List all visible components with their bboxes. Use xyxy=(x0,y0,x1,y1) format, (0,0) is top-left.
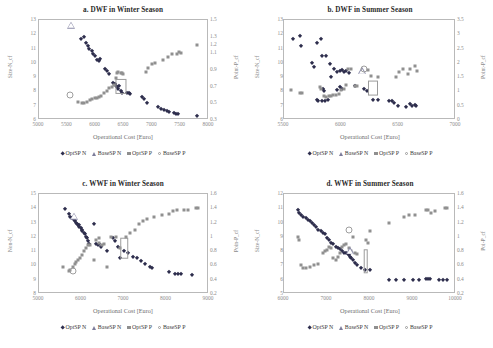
x-tick-label: 7000 xyxy=(146,121,157,127)
data-point-optsp-p xyxy=(97,237,100,240)
plot-area-a xyxy=(38,19,208,119)
y-tick-label-right: 0.5 xyxy=(210,99,217,105)
y-axis-ticks-a: 678910111213 xyxy=(19,19,36,119)
y-tick-label-right: 1.4 xyxy=(457,204,464,210)
y-tick-label: 7 xyxy=(280,261,283,267)
y-tick-label-right: 3.5 xyxy=(457,16,464,22)
y-tick-label-right: 1.5 xyxy=(457,73,464,79)
data-point-optsp-p xyxy=(308,265,311,268)
data-point-optsp-n xyxy=(329,75,334,80)
data-point-optsp-p xyxy=(414,214,417,217)
x-tick-label: 8000 xyxy=(203,121,214,127)
data-point-optsp-n xyxy=(298,34,303,39)
data-point-optsp-n xyxy=(166,270,171,275)
legend-entry: OptSP P xyxy=(374,150,399,156)
y-tick-label: 8 xyxy=(280,247,283,253)
y-tick-label-right: 0.5 xyxy=(457,102,464,108)
data-point-optsp-p xyxy=(129,232,132,235)
data-point-optsp-p xyxy=(133,228,136,231)
legend-entry: OptSP N xyxy=(61,324,87,330)
plot-area-b xyxy=(283,19,455,119)
data-point-optsp-p xyxy=(179,51,182,54)
y-tick-label: 12 xyxy=(31,30,36,36)
x-tick-label: 9000 xyxy=(407,295,418,301)
chart-panel-a: a. DWF in Winter Season 678910111213 0.3… xyxy=(0,0,246,174)
data-point-optsp-n xyxy=(63,207,68,212)
data-point-optsp-p xyxy=(61,265,64,268)
y-tick-label-right: 0.8 xyxy=(457,247,464,253)
data-point-optsp-n xyxy=(149,266,154,271)
data-point-optsp-p xyxy=(433,210,436,213)
data-point-optsp-p xyxy=(413,65,416,68)
data-point-optsp-p xyxy=(344,84,347,87)
panel-title-c: c. WWF in Winter Season xyxy=(0,180,246,188)
data-point-optsp-p xyxy=(349,68,352,71)
data-point-basesp-n xyxy=(67,22,75,29)
x-tick-label: 9000 xyxy=(203,295,214,301)
legend-label: OptSP P xyxy=(379,324,399,330)
y-tick-label: 13 xyxy=(31,16,36,22)
data-point-optsp-n xyxy=(414,104,419,109)
data-point-optsp-p xyxy=(397,71,400,74)
data-point-basesp-p xyxy=(69,268,76,275)
x-tick-label: 6000 xyxy=(89,121,100,127)
data-point-optsp-p xyxy=(351,235,354,238)
data-point-optsp-p xyxy=(377,75,380,78)
data-point-optsp-n xyxy=(194,113,199,118)
chart-panel-d: d. WWF in Summer Season 56789101112 0.20… xyxy=(247,174,493,348)
data-point-optsp-p xyxy=(416,69,419,72)
y-tick-label: 9 xyxy=(280,233,283,239)
data-point-optsp-p xyxy=(84,247,87,250)
data-point-optsp-p xyxy=(186,208,189,211)
data-point-optsp-n xyxy=(312,65,317,70)
data-point-optsp-p xyxy=(106,265,109,268)
data-point-optsp-p xyxy=(356,253,359,256)
legend-d: OptSP NBaseSP NOptSP PBaseSP P xyxy=(247,324,493,330)
data-point-optsp-n xyxy=(127,92,132,97)
legend-label: OptSP N xyxy=(312,324,333,330)
legend-entry: BaseSP N xyxy=(339,324,368,330)
y-tick-label: 12 xyxy=(278,30,283,36)
y-tick-label: 12 xyxy=(31,233,36,239)
data-point-optsp-n xyxy=(417,277,422,282)
y-tick-label-right: 1 xyxy=(457,233,460,239)
legend-label: OptSP P xyxy=(132,150,152,156)
data-point-basesp-n xyxy=(346,247,354,254)
x-tick-label: 7500 xyxy=(174,121,185,127)
data-point-optsp-p xyxy=(142,220,145,223)
data-point-optsp-p xyxy=(446,207,449,210)
data-point-optsp-p xyxy=(319,87,322,90)
x-tick-label: 5500 xyxy=(278,121,289,127)
data-point-optsp-p xyxy=(301,91,304,94)
data-point-optsp-p xyxy=(304,267,307,270)
y-tick-label-right: 0.6 xyxy=(210,261,217,267)
y-tick-label: 10 xyxy=(278,59,283,65)
panel-title-a: a. DWF in Winter Season xyxy=(0,6,246,14)
diamond-icon xyxy=(307,151,312,156)
data-point-basesp-p xyxy=(345,226,352,233)
y-tick-label-right: 1.2 xyxy=(210,41,217,47)
x-tick-label: 6000 xyxy=(335,121,346,127)
data-point-optsp-p xyxy=(102,243,105,246)
triangle-icon xyxy=(339,326,343,330)
triangle-inner xyxy=(71,214,77,219)
legend-entry: OptSP N xyxy=(308,324,334,330)
y-tick-label-right: 1 xyxy=(457,87,460,93)
diamond-icon xyxy=(307,325,312,330)
y-tick-label-right: 1.2 xyxy=(457,219,464,225)
legend-entry: BaseSP N xyxy=(339,150,368,156)
data-point-optsp-n xyxy=(394,277,399,282)
data-point-optsp-n xyxy=(402,277,407,282)
data-point-optsp-p xyxy=(146,67,149,70)
y-tick-label-right: 1.4 xyxy=(210,204,217,210)
y-tick-label: 13 xyxy=(31,219,36,225)
y-tick-label-right: 0.7 xyxy=(210,83,217,89)
data-point-optsp-p xyxy=(154,61,157,64)
y-tick-label-right: 1.2 xyxy=(210,219,217,225)
data-point-optsp-p xyxy=(317,263,320,266)
data-point-optsp-p xyxy=(197,206,200,209)
x-tick-label: 7000 xyxy=(118,295,129,301)
triangle-icon xyxy=(92,326,96,330)
circle-icon xyxy=(405,326,408,329)
data-point-optsp-p xyxy=(161,59,164,62)
